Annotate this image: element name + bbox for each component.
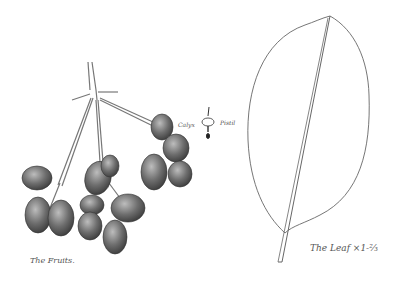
leaf — [248, 16, 369, 262]
leaf-caption: The Leaf ×1-⅔ — [310, 243, 378, 253]
fruits — [22, 114, 192, 254]
fruits-caption: The Fruits. — [30, 256, 75, 265]
pistil-label: Pistil — [220, 119, 235, 126]
calyx-pistil-detail — [202, 107, 214, 139]
calyx-label: Calyx — [178, 121, 195, 128]
